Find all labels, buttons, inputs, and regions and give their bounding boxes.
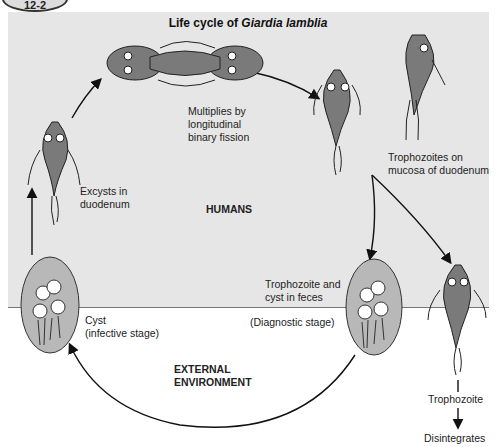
trophozoite-icon (314, 70, 361, 175)
side-view-trophozoite-icon (406, 35, 445, 140)
label-diagnostic: (Diagnostic stage) (250, 316, 335, 329)
label-excysts: Excysts in duodenum (80, 185, 130, 211)
excreted-trophozoite-icon (428, 265, 486, 375)
label-disintegrates: Disintegrates (424, 432, 485, 445)
feces-cyst-icon (346, 259, 402, 355)
label-humans: HUMANS (206, 203, 252, 216)
label-fission: Multiplies by longitudinal binary fissio… (188, 105, 249, 144)
label-external: EXTERNAL ENVIRONMENT (174, 363, 252, 389)
label-mucosa: Trophozoites on mucosa of duodenum (388, 151, 489, 177)
label-feces: Trophozoite and cyst in feces (265, 278, 341, 304)
excysting-trophozoite-icon (28, 122, 80, 225)
cyst-icon (21, 257, 79, 353)
dividing-trophozoite-icon (107, 42, 263, 87)
label-cyst: Cyst (infective stage) (85, 314, 159, 340)
label-trophozoite: Trophozoite (428, 393, 483, 406)
